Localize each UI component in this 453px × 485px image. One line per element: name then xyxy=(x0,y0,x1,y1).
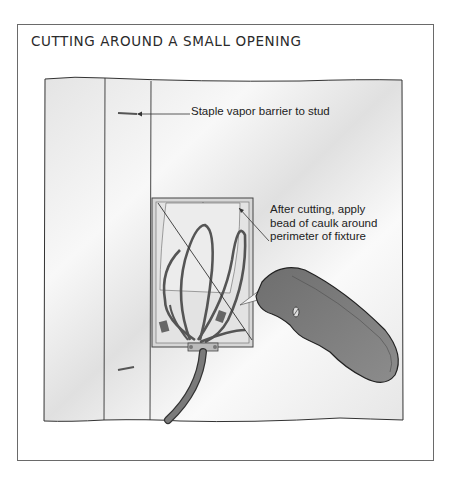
callout-caulk-line-2: bead of caulk around xyxy=(270,217,377,231)
staple-icon xyxy=(118,113,137,114)
callout-caulk-line-1: After cutting, apply xyxy=(270,203,377,217)
illustration xyxy=(0,0,453,485)
callout-staple: Staple vapor barrier to stud xyxy=(191,105,330,119)
callout-caulk: After cutting, apply bead of caulk aroun… xyxy=(270,203,377,244)
callout-caulk-line-3: perimeter of fixture xyxy=(270,230,377,244)
